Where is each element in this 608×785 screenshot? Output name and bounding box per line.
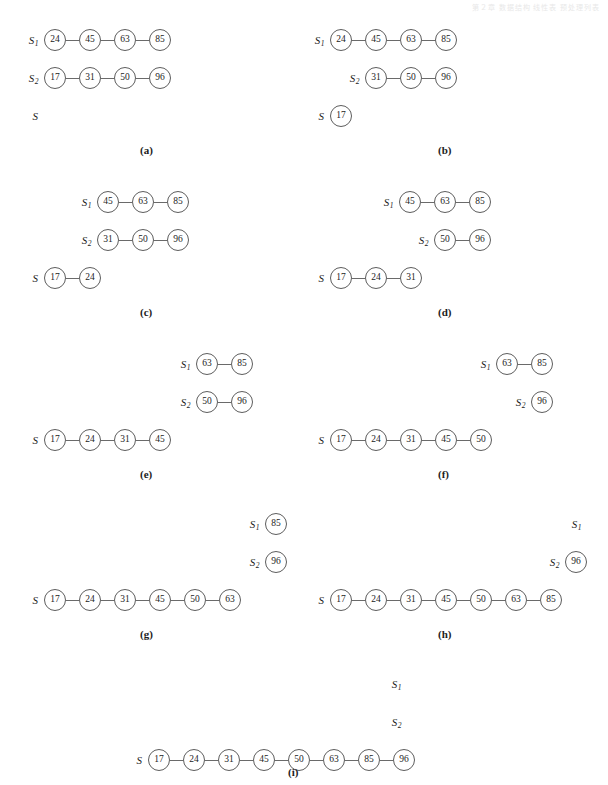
list-node[interactable]: 63 (219, 589, 241, 611)
list-node[interactable]: 85 (540, 589, 562, 611)
panel-e-label-s1-subscript: 1 (187, 363, 191, 372)
list-node[interactable]: 63 (132, 191, 154, 213)
link-connector (527, 600, 540, 601)
link-connector (119, 240, 132, 241)
list-node[interactable]: 63 (496, 353, 518, 375)
list-node[interactable]: 17 (330, 267, 352, 289)
panel-f-label-s1-text: S (481, 358, 487, 370)
list-node[interactable]: 85 (358, 749, 380, 771)
panel-b-row-s1: S124456385 (330, 28, 457, 52)
link-connector (170, 760, 183, 761)
list-node[interactable]: 45 (253, 749, 275, 771)
panel-c-label-s: S (33, 273, 39, 284)
list-node[interactable]: 96 (167, 229, 189, 251)
list-node[interactable]: 45 (149, 429, 171, 451)
list-node[interactable]: 63 (400, 29, 422, 51)
list-node[interactable]: 63 (434, 191, 456, 213)
panel-c-label-s2-text: S (82, 234, 88, 246)
list-node[interactable]: 63 (505, 589, 527, 611)
panel-g-row-s2: S296 (265, 550, 287, 574)
list-node[interactable]: 50 (400, 67, 422, 89)
list-node[interactable]: 17 (44, 589, 66, 611)
list-node[interactable]: 45 (79, 29, 101, 51)
list-node[interactable]: 85 (265, 513, 287, 535)
panel-h-label-s2: S2 (550, 557, 559, 568)
panel-f-row-s2: S296 (531, 390, 553, 414)
panel-g-caption: (g) (140, 628, 153, 640)
panel-h-label-s-text: S (319, 594, 325, 606)
list-node[interactable]: 24 (183, 749, 205, 771)
list-node[interactable]: 85 (531, 353, 553, 375)
list-node[interactable]: 85 (167, 191, 189, 213)
panel-g-label-s1: S1 (250, 519, 259, 530)
list-node[interactable]: 50 (132, 229, 154, 251)
list-node[interactable]: 31 (365, 67, 387, 89)
link-connector (345, 760, 358, 761)
list-node[interactable]: 24 (365, 267, 387, 289)
link-connector (457, 440, 470, 441)
list-node[interactable]: 85 (231, 353, 253, 375)
list-node[interactable]: 96 (149, 67, 171, 89)
list-node[interactable]: 24 (330, 29, 352, 51)
list-node[interactable]: 45 (435, 429, 457, 451)
list-node[interactable]: 31 (400, 267, 422, 289)
list-node[interactable]: 85 (149, 29, 171, 51)
panel-i-label-s-text: S (137, 754, 143, 766)
list-node[interactable]: 17 (44, 429, 66, 451)
list-node[interactable]: 31 (97, 229, 119, 251)
list-node[interactable]: 24 (365, 429, 387, 451)
list-node[interactable]: 50 (114, 67, 136, 89)
list-node[interactable]: 31 (400, 589, 422, 611)
list-node[interactable]: 17 (44, 67, 66, 89)
list-node[interactable]: 31 (114, 589, 136, 611)
link-connector (352, 600, 365, 601)
list-node[interactable]: 96 (265, 551, 287, 573)
list-node[interactable]: 24 (79, 267, 101, 289)
list-node[interactable]: 50 (470, 589, 492, 611)
panel-f-caption: (f) (438, 468, 449, 480)
list-node[interactable]: 96 (469, 229, 491, 251)
list-node[interactable]: 31 (218, 749, 240, 771)
panel-d-label-s2-text: S (419, 234, 425, 246)
list-node[interactable]: 24 (79, 429, 101, 451)
list-node[interactable]: 17 (330, 589, 352, 611)
list-node[interactable]: 45 (149, 589, 171, 611)
panel-d-label-s2-subscript: 2 (425, 239, 429, 248)
list-node[interactable]: 45 (435, 589, 457, 611)
list-node[interactable]: 24 (79, 589, 101, 611)
list-node[interactable]: 50 (434, 229, 456, 251)
list-node[interactable]: 31 (79, 67, 101, 89)
list-chain-s1: 6385 (196, 352, 253, 376)
list-node[interactable]: 63 (323, 749, 345, 771)
list-node[interactable]: 96 (435, 67, 457, 89)
list-node[interactable]: 85 (469, 191, 491, 213)
list-node[interactable]: 31 (400, 429, 422, 451)
list-node[interactable]: 45 (399, 191, 421, 213)
list-node[interactable]: 17 (330, 429, 352, 451)
list-node[interactable]: 24 (44, 29, 66, 51)
list-node[interactable]: 85 (435, 29, 457, 51)
list-node[interactable]: 96 (565, 551, 587, 573)
list-node[interactable]: 17 (330, 105, 352, 127)
panel-e-label-s-text: S (33, 434, 39, 446)
panel-a-label-s1-subscript: 1 (35, 39, 39, 48)
list-node[interactable]: 31 (114, 429, 136, 451)
panel-d-row-s: S172431 (330, 266, 422, 290)
link-connector (380, 760, 393, 761)
list-node[interactable]: 45 (365, 29, 387, 51)
list-node[interactable]: 96 (393, 749, 415, 771)
list-node[interactable]: 24 (365, 589, 387, 611)
list-node[interactable]: 17 (44, 267, 66, 289)
link-connector (66, 278, 79, 279)
link-connector (492, 600, 505, 601)
list-node[interactable]: 96 (231, 391, 253, 413)
list-node[interactable]: 17 (148, 749, 170, 771)
link-connector (136, 40, 149, 41)
list-node[interactable]: 45 (97, 191, 119, 213)
list-node[interactable]: 50 (470, 429, 492, 451)
list-node[interactable]: 63 (196, 353, 218, 375)
list-node[interactable]: 50 (196, 391, 218, 413)
list-node[interactable]: 50 (184, 589, 206, 611)
list-node[interactable]: 63 (114, 29, 136, 51)
list-node[interactable]: 96 (531, 391, 553, 413)
